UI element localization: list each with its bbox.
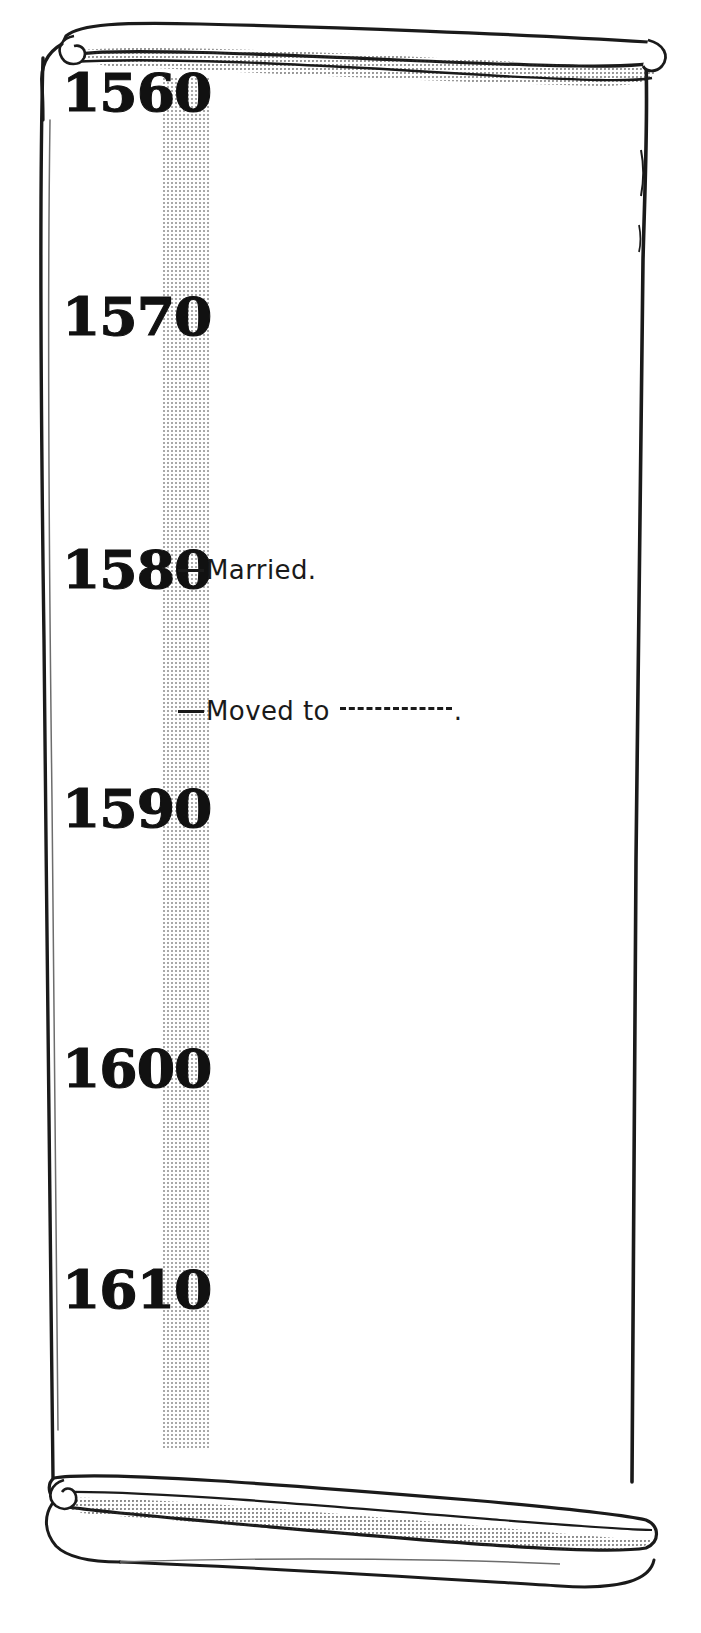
scroll-bottom-inner-sweep (120, 1559, 560, 1564)
event-tick-icon (178, 569, 204, 572)
event-moved-to-period: . (454, 696, 463, 726)
event-married: Married. (178, 555, 316, 585)
year-label-1570: 1570 (62, 290, 211, 343)
event-moved-to-label: Moved to (206, 696, 330, 726)
scroll-bottom-outer-sweep (120, 1560, 654, 1587)
event-married-label: Married. (206, 555, 316, 585)
timeline-band (163, 78, 210, 1448)
fill-in-blank-rule[interactable] (340, 707, 452, 710)
scroll-timeline-page: 1560 1570 1580 1590 1600 1610 Married. M… (0, 0, 701, 1633)
year-label-1610: 1610 (62, 1263, 211, 1316)
year-label-1560: 1560 (62, 66, 211, 119)
event-tick-icon (178, 710, 204, 713)
year-label-1600: 1600 (62, 1042, 211, 1095)
event-moved-to: Moved to . (178, 696, 462, 726)
year-label-1590: 1590 (62, 782, 211, 835)
